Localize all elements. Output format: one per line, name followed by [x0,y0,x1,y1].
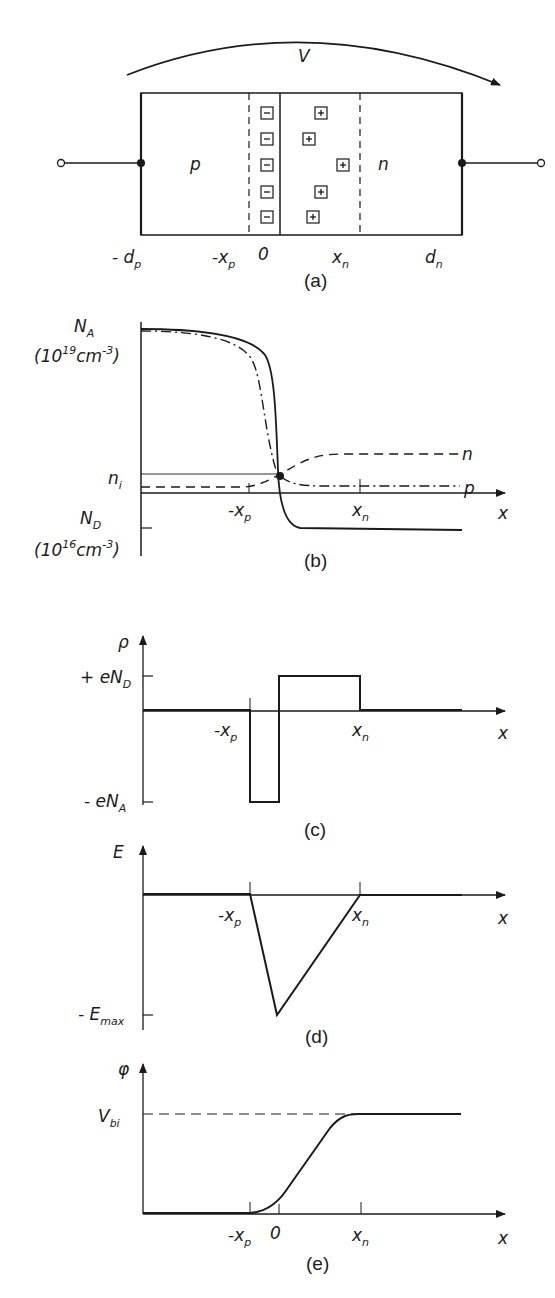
right-junction-dot-icon [458,159,466,167]
zero-tick-label: 0 [270,1223,281,1243]
positive-ion-icon [337,159,349,171]
positive-ion-icon [303,133,315,145]
label-dn: dn [425,247,443,271]
negative-ion-column [261,107,273,223]
voltage-arc-arrow [127,42,500,85]
negative-ion-icon [261,107,273,119]
curve-p-label: p [463,478,475,498]
hole-concentration-dashdot-curve [141,331,460,486]
panel-c-charge-density: ρ + eND - eNA -xp xn x (c) [80,632,509,840]
panel-a-junction-schematic: V p n - dp -xp [58,42,545,291]
n-region-label: n [378,154,389,174]
negative-ion-icon [261,211,273,223]
positive-ion-group [303,107,349,223]
curve-n-label: n [462,444,473,464]
left-terminal-icon [58,160,65,167]
panel-b-carrier-concentration: n p NA (1019cm-3) ni ND (1016cm-3) -xp x… [34,316,509,571]
pn-junction-figure: V p n - dp -xp [0,0,555,1298]
e-axis-label: E [113,842,124,862]
xn-tick-label: xn [351,720,369,744]
doping-profile-solid-curve [141,329,462,530]
negative-ion-icon [261,133,273,145]
xp-tick-label: -xp [218,905,241,929]
caption-d: (d) [305,1026,328,1047]
voltage-label: V [298,46,311,66]
caption-a: (a) [304,270,327,291]
x-axis-label: x [497,908,509,928]
right-terminal-icon [538,160,545,167]
pos-level-label: + eND [80,667,131,691]
vbi-label: Vbi [98,1106,120,1130]
positive-ion-icon [315,186,327,198]
rho-axis-label: ρ [118,632,129,652]
nd-axis-label: ND [80,508,101,532]
caption-b: (b) [304,550,327,571]
ni-label: ni [108,468,122,492]
xn-tick-label: xn [351,1225,369,1249]
positive-ion-icon [307,211,319,223]
intrinsic-crossing-point [276,472,284,480]
panel-d-electric-field: E -xp xn x - Emax (d) [78,842,509,1047]
label-minus-xp: -xp [212,247,235,271]
xp-tick-label: -xp [228,1225,251,1249]
potential-profile [143,1114,461,1213]
label-zero: 0 [258,244,269,264]
neg-level-label: - eNA [84,791,126,815]
p-region-label: p [189,154,201,174]
positive-ion-icon [315,107,327,119]
xn-tick-label: xn [351,905,369,929]
negative-ion-icon [261,159,273,171]
panel-e-potential: φ Vbi -xp 0 xn x (e) [98,1059,509,1274]
xp-tick-label: -xp [228,500,251,524]
caption-c: (c) [304,819,326,840]
nd-unit-label: (1016cm-3) [34,538,120,560]
x-axis-label: x [497,503,509,523]
negative-ion-icon [261,186,273,198]
x-axis-label: x [497,1228,509,1248]
label-minus-dp: - dp [112,247,141,271]
label-xn: xn [331,247,349,271]
na-axis-label: NA [74,316,94,340]
electron-concentration-dashed-curve [141,454,462,487]
charge-density-profile [143,676,462,802]
xp-tick-label: -xp [214,720,237,744]
phi-axis-label: φ [118,1059,130,1079]
x-axis-label: x [497,723,509,743]
emax-label: - Emax [78,1004,125,1028]
caption-e: (e) [306,1253,329,1274]
left-junction-dot-icon [137,159,145,167]
xn-tick-label: xn [351,500,369,524]
na-unit-label: (1019cm-3) [34,344,120,366]
electric-field-profile [143,894,462,1015]
